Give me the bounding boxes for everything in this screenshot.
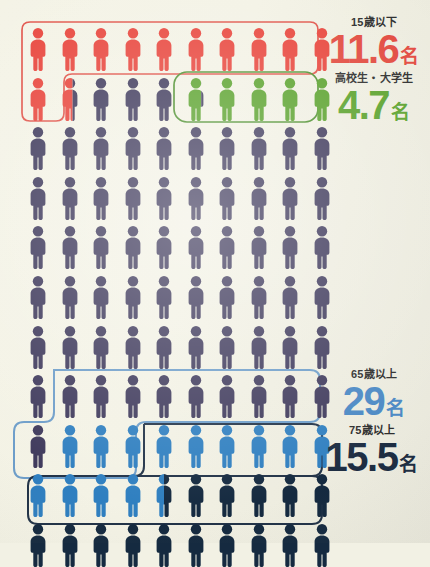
person-icon (57, 225, 83, 269)
person-icon (277, 176, 303, 220)
person-icon (25, 523, 51, 567)
legend-over75-number: 15.5 (326, 435, 398, 479)
legend-students: 高校生・大学生 4.7名 (318, 72, 430, 124)
person-icon (183, 176, 209, 220)
legend-over75: 75歳以上 15.5名 (314, 424, 430, 476)
person-icon (25, 77, 51, 121)
person-icon (88, 473, 114, 517)
person-icon (88, 176, 114, 220)
legend-under15-value: 11.6名 (318, 30, 430, 68)
person-icon (246, 176, 272, 220)
person-icon (57, 27, 83, 71)
person-icon (246, 424, 272, 468)
person-icon (309, 176, 335, 220)
person-icon (246, 27, 272, 71)
person-icon (214, 325, 240, 369)
person-icon (57, 77, 83, 121)
legend-students-value: 4.7名 (318, 86, 430, 124)
person-icon (151, 523, 177, 567)
person-icon (214, 126, 240, 170)
person-icon (277, 225, 303, 269)
legend-over65-number: 29 (343, 379, 385, 423)
person-icon (57, 325, 83, 369)
person-icon (246, 523, 272, 567)
legend-under15-unit: 名 (400, 46, 419, 67)
person-icon (120, 374, 146, 418)
person-icon (183, 126, 209, 170)
person-icon (183, 473, 209, 517)
person-icon (277, 77, 303, 121)
legend-under15-number: 11.6 (329, 27, 399, 71)
person-icon (88, 424, 114, 468)
person-icon (151, 176, 177, 220)
person-icon (151, 473, 177, 517)
person-icon (183, 424, 209, 468)
person-icon (25, 126, 51, 170)
person-icon (88, 77, 114, 121)
person-icon (120, 424, 146, 468)
person-icon (309, 225, 335, 269)
person-icon (25, 275, 51, 319)
person-icon (183, 523, 209, 567)
person-icon (151, 77, 177, 121)
person-icon (214, 225, 240, 269)
person-icon (214, 473, 240, 517)
person-icon (277, 523, 303, 567)
person-icon (214, 176, 240, 220)
person-icon (57, 176, 83, 220)
person-icon (120, 126, 146, 170)
person-icon (88, 27, 114, 71)
person-icon (25, 325, 51, 369)
person-icon (120, 523, 146, 567)
person-icon (277, 275, 303, 319)
person-icon (25, 473, 51, 517)
person-icon (57, 275, 83, 319)
person-icon (246, 325, 272, 369)
person-icon (57, 473, 83, 517)
person-icon (25, 424, 51, 468)
person-icon (246, 374, 272, 418)
person-icon (277, 27, 303, 71)
person-icon (214, 424, 240, 468)
person-icon (277, 424, 303, 468)
legend-over65: 65歳以上 29名 (318, 368, 430, 420)
person-icon (57, 374, 83, 418)
legend-over65-unit: 名 (386, 398, 405, 419)
person-icon (88, 523, 114, 567)
person-icon (120, 27, 146, 71)
person-icon (277, 374, 303, 418)
person-icon (183, 27, 209, 71)
person-icon (120, 225, 146, 269)
person-icon (151, 126, 177, 170)
person-icon (214, 27, 240, 71)
person-icon (88, 275, 114, 319)
person-icon (151, 325, 177, 369)
person-icon (246, 275, 272, 319)
legend-over65-value: 29名 (318, 382, 430, 420)
person-icon (57, 424, 83, 468)
legend-students-unit: 名 (391, 102, 410, 123)
person-icon (277, 325, 303, 369)
person-icon (214, 77, 240, 121)
person-icon (25, 225, 51, 269)
person-icon (57, 523, 83, 567)
person-icon (151, 275, 177, 319)
person-icon (151, 374, 177, 418)
person-icon (183, 325, 209, 369)
person-icon (309, 325, 335, 369)
person-icon (214, 523, 240, 567)
person-icon (88, 325, 114, 369)
person-icon (120, 176, 146, 220)
person-icon (214, 374, 240, 418)
person-icon (246, 126, 272, 170)
person-icon (151, 27, 177, 71)
person-icon (183, 225, 209, 269)
person-icon (120, 473, 146, 517)
legend-students-number: 4.7 (338, 83, 389, 127)
person-icon (25, 374, 51, 418)
person-icon (214, 275, 240, 319)
legend-under15: 15歳以下 11.6名 (318, 16, 430, 68)
person-icon (120, 77, 146, 121)
person-icon (183, 275, 209, 319)
